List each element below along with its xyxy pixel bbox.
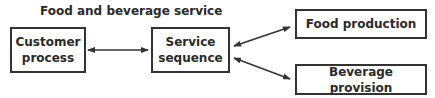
arrow-service-food [234,27,290,46]
connector-arrows [0,0,435,98]
arrow-service-beverage [234,58,290,79]
